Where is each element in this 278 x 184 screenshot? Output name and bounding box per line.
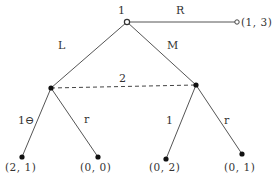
information-set-line bbox=[51, 85, 196, 88]
player2-node-left bbox=[48, 85, 53, 90]
action-M-label: M bbox=[167, 39, 178, 52]
player2-node-right bbox=[193, 82, 198, 87]
action-R-label: R bbox=[176, 4, 185, 17]
root-node bbox=[124, 19, 129, 24]
leaf-payoff-2: (0, 0) bbox=[80, 161, 111, 173]
edge-M bbox=[127, 22, 196, 85]
terminal-node-R bbox=[235, 20, 239, 24]
action-right-l-label: 1 bbox=[166, 114, 173, 127]
action-left-l-label: 1⊖ bbox=[18, 114, 34, 127]
action-left-r-label: r bbox=[84, 113, 90, 126]
leaf-node-2 bbox=[95, 154, 100, 159]
edge-left-r bbox=[51, 88, 98, 157]
leaf-payoff-3: (0, 2) bbox=[149, 161, 180, 173]
leaf-node-1 bbox=[19, 154, 24, 159]
payoff-R: (1, 3) bbox=[241, 16, 272, 28]
leaf-payoff-4: (0, 1) bbox=[224, 161, 255, 173]
action-right-r-label: r bbox=[224, 114, 230, 127]
edge-L bbox=[51, 22, 127, 88]
player-1-label: 1 bbox=[118, 4, 125, 17]
leaf-payoff-1: (2, 1) bbox=[5, 161, 36, 173]
leaf-node-4 bbox=[239, 151, 244, 156]
edge-right-r bbox=[196, 85, 242, 154]
game-tree: 1 R L M 2 (1, 3) 1⊖ r 1 r (2, 1) (0, 0) … bbox=[0, 0, 278, 184]
action-L-label: L bbox=[58, 39, 66, 52]
player-2-label: 2 bbox=[119, 72, 126, 85]
